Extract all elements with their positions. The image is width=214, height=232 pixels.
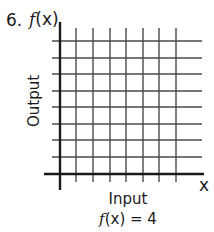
function-equation: f(x) = 4 <box>99 210 157 228</box>
coordinate-grid <box>0 0 214 232</box>
horizontal-grid-lines <box>52 41 202 157</box>
x-axis-label: x <box>199 176 209 194</box>
x-axis-title: Input <box>109 190 148 208</box>
function-rest: (x) = 4 <box>105 210 157 228</box>
vertical-grid-lines <box>76 28 176 182</box>
